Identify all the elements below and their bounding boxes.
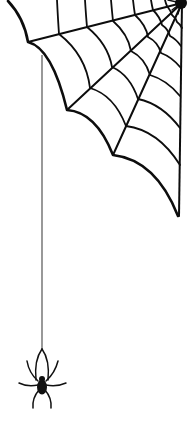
spiderweb-illustration [0,0,189,441]
spider-head [39,376,45,382]
spider-web-icon [8,0,187,216]
web-radials [28,3,182,216]
spider-icon [19,349,66,408]
